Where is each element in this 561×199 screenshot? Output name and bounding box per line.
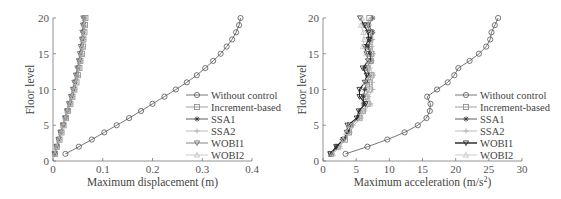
y-tick-label: 0	[314, 155, 320, 167]
legend-item: WOBI1	[455, 138, 513, 149]
y-tick-label: 15	[38, 48, 50, 60]
y-tick-label: 15	[308, 48, 320, 60]
legend: Without controlIncrement-basedSSA1SSA2WO…	[455, 90, 551, 161]
x-tick-label: 0	[50, 163, 56, 175]
legend-item: Without control	[186, 90, 277, 101]
legend-marker-icon	[463, 116, 468, 121]
legend-item: SSA2	[186, 126, 236, 137]
legend-label: SSA1	[211, 114, 236, 125]
x-tick-label: 20	[450, 163, 462, 175]
x-tick-label: 0.2	[146, 163, 160, 175]
legend-label: WOBI1	[480, 138, 513, 149]
x-tick-label: 10	[384, 163, 396, 175]
y-tick-label: 10	[38, 84, 50, 96]
figure-canvas: 00.10.20.30.405101520Maximum displacemen…	[0, 0, 561, 199]
legend-label: SSA2	[480, 126, 505, 137]
series-wobi1	[52, 16, 86, 157]
legend-label: WOBI1	[211, 138, 244, 149]
legend-item: Without control	[455, 90, 546, 101]
series-without-control	[343, 15, 501, 156]
legend-item: WOBI2	[455, 150, 513, 161]
legend-marker-icon	[194, 116, 199, 121]
legend-item: SSA1	[186, 114, 236, 125]
legend-label: SSA2	[211, 126, 236, 137]
legend-label: Increment-based	[480, 102, 551, 113]
y-tick-label: 0	[44, 155, 50, 167]
displacement-chart: 00.10.20.30.405101520Maximum displacemen…	[24, 12, 282, 189]
legend-label: SSA1	[480, 114, 505, 125]
y-tick-label: 10	[308, 84, 320, 96]
y-tick-label: 5	[44, 119, 50, 131]
y-axis-label: Floor level	[296, 64, 308, 114]
legend-label: WOBI2	[211, 150, 244, 161]
x-tick-label: 0.3	[195, 163, 209, 175]
legend-item: Increment-based	[186, 102, 282, 113]
legend: Without controlIncrement-basedSSA1SSA2WO…	[186, 90, 282, 161]
y-tick-label: 5	[314, 119, 320, 131]
x-tick-label: 0	[320, 163, 326, 175]
x-tick-label: 0.4	[245, 163, 259, 175]
legend-item: WOBI2	[186, 150, 244, 161]
y-axis-label: Floor level	[24, 64, 36, 114]
y-tick-label: 20	[38, 12, 50, 24]
x-tick-label: 30	[517, 163, 529, 175]
data-point-marker	[369, 15, 374, 20]
legend-item: Increment-based	[455, 102, 551, 113]
legend-label: Increment-based	[211, 102, 282, 113]
x-axis-label: Maximum acceleration (m/s2)	[354, 175, 492, 189]
x-tick-label: 5	[353, 163, 359, 175]
legend-marker-icon	[463, 128, 468, 133]
legend-marker-icon	[194, 128, 199, 133]
legend-item: SSA1	[455, 114, 505, 125]
x-axis-label: Maximum displacement (m)	[87, 176, 218, 189]
acceleration-chart: 05101520253005101520Maximum acceleration…	[296, 12, 551, 189]
x-tick-label: 15	[417, 163, 429, 175]
legend-label: Without control	[211, 90, 277, 101]
legend-label: WOBI2	[480, 150, 513, 161]
legend-label: Without control	[480, 90, 546, 101]
legend-item: WOBI1	[186, 138, 244, 149]
x-tick-label: 0.1	[96, 163, 110, 175]
x-tick-label: 25	[483, 163, 495, 175]
legend-item: SSA2	[455, 126, 505, 137]
y-tick-label: 20	[308, 12, 320, 24]
